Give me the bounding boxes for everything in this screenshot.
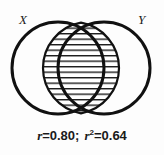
caption-r-squared: r2=0.64 xyxy=(84,128,126,143)
set-label-y: Y xyxy=(138,12,147,27)
caption: r=0.80;r2=0.64 xyxy=(0,128,164,144)
caption-r-symbol: r=0.80 xyxy=(37,128,75,143)
caption-separator: ; xyxy=(75,128,79,143)
venn-diagram-figure: X Y r=0.80;r2=0.64 xyxy=(0,0,164,155)
set-label-x: X xyxy=(18,12,28,27)
venn-diagram-svg: X Y xyxy=(0,0,164,128)
